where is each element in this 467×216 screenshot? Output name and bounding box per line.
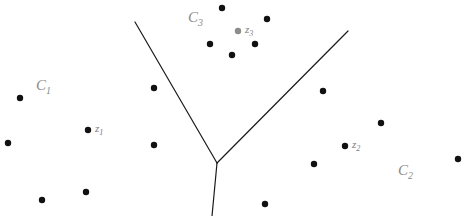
centroid-point-z1 xyxy=(85,127,91,133)
centroid-label-subscript: 3 xyxy=(249,29,253,38)
data-point xyxy=(262,201,268,207)
centroid-label-z2: z2 xyxy=(352,139,360,153)
plot-canvas xyxy=(0,0,467,216)
data-point xyxy=(17,95,23,101)
right-boundary xyxy=(217,31,348,163)
data-point xyxy=(5,140,11,146)
data-point xyxy=(83,189,89,195)
cluster-label-base: C xyxy=(398,162,408,178)
left-boundary xyxy=(135,22,217,163)
data-point xyxy=(39,197,45,203)
data-point xyxy=(252,41,258,47)
data-point xyxy=(219,5,225,11)
cluster-label-subscript: 1 xyxy=(46,85,51,96)
data-point xyxy=(320,88,326,94)
data-point xyxy=(378,120,384,126)
data-points xyxy=(5,5,461,207)
cluster-label-c2: C2 xyxy=(398,163,413,181)
centroid-point-z3 xyxy=(235,28,241,34)
centroid-label-z3: z3 xyxy=(245,24,253,38)
centroid-points xyxy=(85,28,348,149)
cluster-label-base: C xyxy=(188,9,198,25)
clustering-figure: C1C2C3z1z2z3 xyxy=(0,0,467,216)
cluster-label-c1: C1 xyxy=(36,78,51,96)
data-point xyxy=(207,41,213,47)
data-point xyxy=(455,156,461,162)
centroid-label-subscript: 1 xyxy=(99,128,103,137)
cluster-label-c3: C3 xyxy=(188,10,203,28)
data-point xyxy=(151,142,157,148)
bottom-boundary xyxy=(212,163,217,216)
centroid-point-z2 xyxy=(342,143,348,149)
centroid-label-subscript: 2 xyxy=(356,144,360,153)
centroid-label-z1: z1 xyxy=(95,123,103,137)
data-point xyxy=(264,16,270,22)
boundary-lines xyxy=(135,22,348,216)
data-point xyxy=(229,52,235,58)
cluster-label-subscript: 3 xyxy=(198,17,203,28)
data-point xyxy=(311,161,317,167)
cluster-label-base: C xyxy=(36,77,46,93)
cluster-label-subscript: 2 xyxy=(408,170,413,181)
data-point xyxy=(151,85,157,91)
